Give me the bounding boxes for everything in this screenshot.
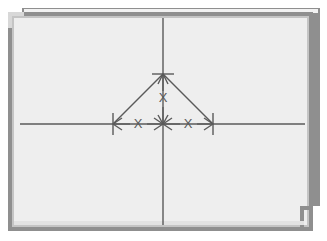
- frame-notch-left-top: [8, 12, 12, 28]
- right-dimension-label: X: [184, 116, 193, 131]
- technical-drawing-svg: X X X: [0, 0, 327, 241]
- left-dimension-label: X: [134, 116, 143, 131]
- frame-bottom-highlight: [14, 221, 304, 225]
- frame-notch-right-bottom: [300, 206, 304, 231]
- diagram-canvas: X X X: [0, 0, 327, 241]
- frame-border: [8, 8, 320, 231]
- vertical-dimension-label: X: [159, 90, 168, 105]
